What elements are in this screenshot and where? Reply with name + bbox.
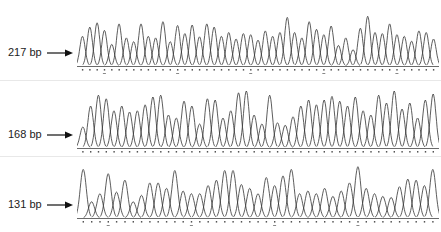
trace-panel: 168 bp <box>0 84 441 154</box>
fragment-size-label: 217 bp <box>8 46 42 58</box>
arrow-right-icon <box>47 201 73 209</box>
trace-panel: 217 bp <box>0 8 441 78</box>
chromatogram-trace <box>77 160 439 232</box>
arrow-right-icon <box>47 131 73 139</box>
panel-divider <box>0 156 441 157</box>
panel-divider <box>0 80 441 81</box>
fragment-size-label: 168 bp <box>8 128 42 140</box>
arrow-right-icon <box>47 49 73 57</box>
chromatogram-trace <box>77 84 439 154</box>
chromatogram-trace <box>77 8 439 78</box>
fragment-size-label: 131 bp <box>8 198 42 210</box>
trace-panel: 131 bp <box>0 160 441 232</box>
